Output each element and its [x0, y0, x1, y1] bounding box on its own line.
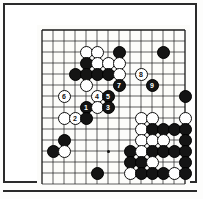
move-number: 1 — [84, 103, 88, 110]
move-number: 9 — [150, 81, 154, 88]
move-number: 8 — [139, 70, 143, 77]
move-number: 4 — [95, 92, 99, 99]
move-number: 7 — [117, 81, 121, 88]
stone-black[interactable] — [157, 46, 170, 59]
stone-black[interactable] — [80, 112, 93, 125]
move-number: 3 — [106, 103, 110, 110]
move-stone-9[interactable]: 9 — [146, 79, 159, 92]
move-number: 2 — [73, 114, 77, 121]
move-number: 6 — [62, 92, 66, 99]
stone-black[interactable] — [179, 90, 192, 103]
stone-black[interactable] — [179, 167, 192, 180]
hoshi-point — [107, 150, 110, 153]
move-stone-7[interactable]: 7 — [113, 79, 126, 92]
stone-white[interactable] — [80, 79, 93, 92]
move-stone-8[interactable]: 8 — [135, 68, 148, 81]
move-stone-3[interactable]: 3 — [102, 101, 115, 114]
go-board[interactable]: 879645132 — [37, 25, 190, 189]
go-diagram-figure: 879645132 — [0, 0, 203, 199]
stone-black[interactable] — [91, 167, 104, 180]
figure-bottom-rule — [3, 190, 197, 192]
figure-outer-frame: 879645132 — [3, 3, 197, 183]
stone-white[interactable] — [58, 145, 71, 158]
move-number: 5 — [106, 92, 110, 99]
move-stone-6[interactable]: 6 — [58, 90, 71, 103]
